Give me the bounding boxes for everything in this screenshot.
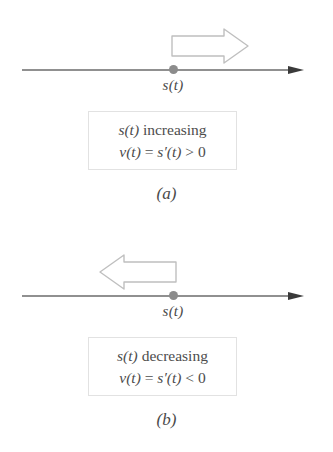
statement-a-value: 0 [198, 143, 206, 160]
statement-box-a: s(t) increasing v(t) = s′(t) > 0 [88, 111, 237, 170]
statement-line-2-b: v(t) = s′(t) < 0 [119, 367, 205, 388]
number-line-b [22, 292, 304, 300]
block-arrow-right-icon [170, 28, 250, 64]
panel-caption-b: (b) [0, 410, 333, 430]
position-dot-b [169, 291, 178, 300]
statement-b-velocity: v(t) [119, 369, 141, 386]
statement-b-word: decreasing [142, 347, 208, 364]
figure-container: s(t) s(t) increasing v(t) = s′(t) > 0 (a… [0, 0, 333, 452]
statement-a-function: s(t) [118, 121, 139, 138]
statement-b-function: s(t) [117, 347, 138, 364]
statement-a-velocity: v(t) [119, 143, 141, 160]
statement-b-derivative: s′(t) [157, 369, 181, 386]
statement-line-1-b: s(t) decreasing [117, 345, 208, 366]
number-line-a [22, 66, 304, 74]
panel-caption-a: (a) [0, 184, 333, 204]
panel-b: s(t) s(t) decreasing v(t) = s′(t) < 0 (b… [0, 226, 333, 452]
statement-a-relation: > [185, 143, 194, 160]
position-label-b: s(t) [140, 303, 206, 320]
panel-a: s(t) s(t) increasing v(t) = s′(t) > 0 (a… [0, 0, 333, 226]
statement-a-derivative: s′(t) [157, 143, 181, 160]
statement-line-2-a: v(t) = s′(t) > 0 [119, 141, 205, 162]
statement-b-value: 0 [198, 369, 206, 386]
statement-line-1-a: s(t) increasing [118, 119, 206, 140]
position-dot-a [169, 65, 178, 74]
statement-a-word: increasing [143, 121, 207, 138]
block-arrow-left-icon [98, 254, 178, 290]
statement-b-relation: < [185, 369, 194, 386]
position-label-a: s(t) [140, 77, 206, 94]
statement-box-b: s(t) decreasing v(t) = s′(t) < 0 [88, 337, 237, 396]
